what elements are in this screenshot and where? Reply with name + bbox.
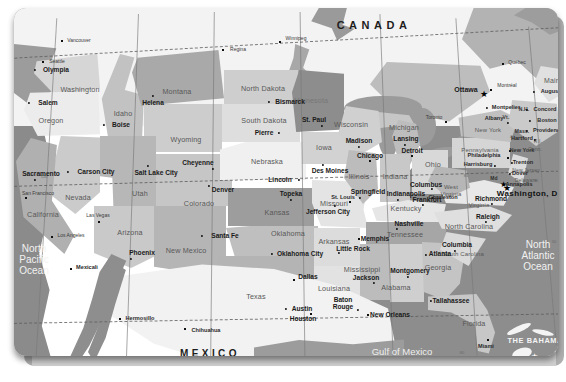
city-label-mexicali: Mexicali <box>76 265 98 271</box>
city-dot-montreal <box>490 89 492 91</box>
capital-dot-lincoln <box>298 179 300 181</box>
state-nebraska <box>220 142 306 180</box>
screenshot-root: 120 80 70 40 30 90 80 CANADA MEXICO Nort… <box>0 0 566 382</box>
city-dot-chicago <box>369 160 371 162</box>
city-dot-winnipeg <box>279 41 281 43</box>
state-kentucky <box>372 200 446 224</box>
city-dot-chihuahua <box>184 328 186 330</box>
city-dot-st-louis <box>349 201 351 203</box>
state-tennessee <box>366 222 446 244</box>
state-north-dakota <box>224 70 298 104</box>
city-dot-hermosillo <box>119 318 121 320</box>
city-dot-memphis <box>358 238 360 240</box>
state-kansas <box>228 188 314 226</box>
city-dot-vancouver <box>61 40 63 42</box>
city-dot-mexicali <box>70 268 72 270</box>
city-dot-new-york <box>509 150 511 152</box>
city-dot-los-angeles <box>51 236 53 238</box>
state-utah <box>100 136 156 208</box>
tick-label-80b: 80 <box>460 350 464 355</box>
map-image: 120 80 70 40 30 90 80 CANADA MEXICO Nort… <box>14 8 558 356</box>
state-new-mexico <box>154 206 226 272</box>
map-canvas: 120 80 70 40 30 90 80 CANADA MEXICO Nort… <box>14 8 558 356</box>
city-dot-regina <box>222 49 224 51</box>
city-dot-seattle <box>42 61 44 63</box>
city-dot-las-vegas <box>98 221 100 223</box>
city-dot-philadelphia <box>507 157 509 159</box>
capital-star-ottawa: ★ <box>480 90 488 99</box>
capital-label-des-moines: Des Moines <box>312 168 349 175</box>
state-south-dakota <box>222 104 300 142</box>
state-oregon <box>24 90 100 136</box>
tick-label-90: 90 <box>384 349 388 354</box>
tick-label-40: 40 <box>510 134 514 139</box>
tick-label-30: 30 <box>552 239 556 244</box>
city-dot-quebec <box>502 63 504 65</box>
capital-star-washington-dc: ★ <box>503 184 511 193</box>
city-dot-san-francisco <box>25 197 27 199</box>
city-dot-miami <box>487 339 489 341</box>
city-dot-dallas <box>293 279 295 281</box>
city-dot-toronto <box>445 121 447 123</box>
tick-label-120: 120 <box>41 174 48 179</box>
state-alabama <box>390 244 424 302</box>
state-pennsylvania <box>452 138 510 168</box>
capital-dot-des-moines <box>322 164 324 166</box>
state-arizona <box>94 206 154 268</box>
state-mississippi <box>360 244 392 300</box>
tick-label-80: 80 <box>464 173 468 178</box>
nassau-capital-star: ★ <box>531 353 538 356</box>
tick-label-70: 70 <box>534 178 538 183</box>
city-dot-new-orleans <box>367 314 369 316</box>
state-arkansas <box>314 228 360 266</box>
state-montana <box>132 50 224 106</box>
city-dot-detroit <box>411 155 413 157</box>
city-dot-houston <box>310 313 312 315</box>
